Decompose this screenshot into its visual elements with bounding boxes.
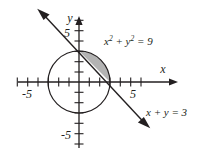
circle-eq-plus-y: + y xyxy=(113,35,131,47)
y-tick-label-five: 5 xyxy=(64,26,70,40)
line-curve xyxy=(43,14,146,124)
circle-equation-label: x2 + y2 = 9 xyxy=(103,34,153,47)
y-tick-label-negative-five: -5 xyxy=(61,128,71,142)
svg-text:x2 + y2 = 9: x2 + y2 = 9 xyxy=(103,34,153,47)
circle-eq-equals-nine: = 9 xyxy=(134,35,153,47)
line-equation-label: x + y = 3 xyxy=(145,106,188,118)
y-axis-label: y xyxy=(66,11,73,25)
x-axis-arrow-icon xyxy=(169,78,178,85)
x-tick-label-five: 5 xyxy=(130,87,136,101)
x-tick-label-negative-five: -5 xyxy=(22,87,32,101)
coordinate-graph: x y -5 5 5 -5 x2 + y2 = 9 x + y = 3 xyxy=(0,0,208,158)
x-axis-label: x xyxy=(159,62,166,76)
figure-root: x y -5 5 5 -5 x2 + y2 = 9 x + y = 3 xyxy=(0,0,208,158)
